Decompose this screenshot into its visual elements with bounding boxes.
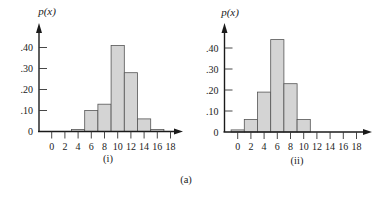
- y-tick-label: .40: [21, 42, 34, 53]
- figure: p(x)0.10.20.30.40024681012141618(i) p(x)…: [0, 0, 390, 197]
- x-tick-label: 18: [166, 141, 176, 152]
- bar-x-6: [85, 111, 98, 132]
- x-tick-label: 0: [235, 141, 240, 152]
- x-tick-label: 2: [248, 141, 253, 152]
- x-tick-label: 0: [49, 141, 54, 152]
- x-tick-label: 6: [89, 141, 94, 152]
- y-axis-title: p(x): [37, 5, 56, 18]
- bar-x-10: [111, 45, 124, 131]
- y-axis-arrow-icon: [222, 23, 228, 33]
- y-tick-label: 0: [214, 127, 219, 138]
- x-tick-label: 2: [62, 141, 67, 152]
- x-axis-arrow-icon: [363, 129, 372, 135]
- bar-x-8: [98, 104, 111, 131]
- x-tick-label: 4: [76, 141, 81, 152]
- y-tick-label: .30: [206, 64, 219, 75]
- x-tick-label: 14: [325, 141, 335, 152]
- panel-label: (ii): [291, 155, 304, 167]
- y-axis-arrow-icon: [36, 23, 42, 33]
- x-tick-label: 14: [139, 141, 149, 152]
- figure-label: (a): [180, 174, 192, 186]
- bar-x-10: [297, 119, 310, 132]
- bar-x-14: [138, 119, 151, 132]
- chart-panel-ii: p(x)0.10.20.30.40024681012141618(ii): [206, 6, 372, 167]
- bar-x-12: [124, 73, 137, 132]
- y-tick-label: .20: [21, 84, 34, 95]
- x-tick-label: 18: [352, 141, 362, 152]
- x-tick-label: 8: [102, 141, 107, 152]
- y-tick-label: .10: [206, 106, 219, 117]
- y-tick-label: .40: [206, 43, 219, 54]
- chart-panel-i: p(x)0.10.20.30.40024681012141618(i): [21, 5, 184, 165]
- y-tick-label: .20: [206, 85, 219, 96]
- y-tick-label: .10: [21, 105, 34, 116]
- x-tick-label: 16: [338, 141, 348, 152]
- x-tick-label: 8: [288, 141, 293, 152]
- y-axis-title: p(x): [220, 6, 239, 19]
- x-tick-label: 12: [312, 141, 322, 152]
- x-tick-label: 6: [275, 141, 280, 152]
- x-tick-label: 12: [126, 141, 136, 152]
- bar-x-2: [244, 119, 257, 132]
- x-tick-label: 10: [299, 141, 309, 152]
- x-axis-arrow-icon: [174, 129, 183, 135]
- y-tick-label: .30: [21, 63, 34, 74]
- x-tick-label: 10: [113, 141, 123, 152]
- bar-x-8: [284, 84, 297, 132]
- bar-x-4: [258, 92, 271, 132]
- panel-label: (i): [103, 153, 113, 165]
- x-tick-label: 4: [262, 141, 267, 152]
- y-tick-label: 0: [28, 126, 33, 137]
- bar-x-6: [271, 40, 284, 132]
- x-tick-label: 16: [152, 141, 162, 152]
